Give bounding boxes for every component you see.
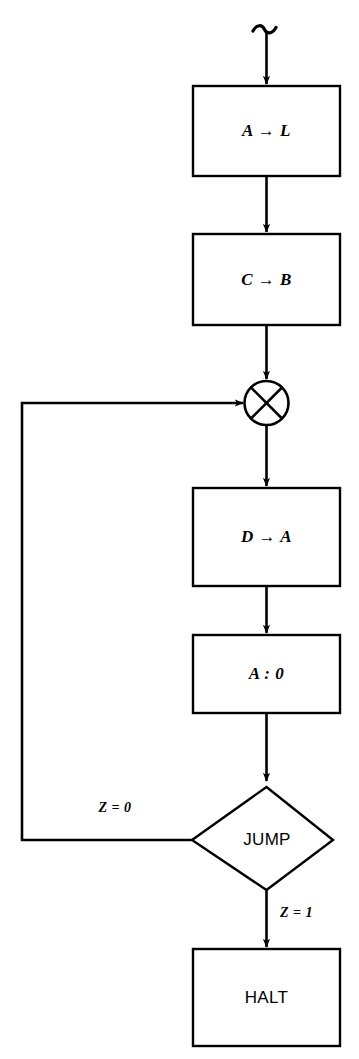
flowchart-graphics bbox=[0, 0, 359, 1059]
entry-squiggle-icon bbox=[253, 26, 276, 33]
merge-junction-icon bbox=[245, 381, 289, 425]
process-box-a-to-l bbox=[193, 86, 340, 176]
terminal-box-halt bbox=[193, 949, 340, 1046]
process-box-d-to-a bbox=[193, 488, 340, 586]
decision-diamond-jump bbox=[192, 787, 333, 890]
edge-jump-loop-back bbox=[22, 403, 243, 840]
flowchart-canvas: A → L C → B D → A A : 0 JUMP HALT Z = 0 … bbox=[0, 0, 359, 1059]
process-box-compare-a-zero bbox=[193, 635, 340, 713]
process-box-c-to-b bbox=[193, 234, 340, 325]
